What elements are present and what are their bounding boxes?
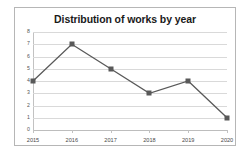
y-tick-label-6: 6 [27, 54, 30, 59]
data-point-2017 [108, 66, 113, 71]
gridline-0 [33, 130, 227, 131]
y-tick-label-1: 1 [27, 115, 30, 120]
y-tick-label-8: 8 [27, 29, 30, 34]
series-line [33, 32, 227, 130]
y-tick-label-2: 2 [27, 103, 30, 108]
x-tick-label-2020: 2020 [221, 138, 233, 144]
x-tick-label-2016: 2016 [66, 138, 78, 144]
data-point-2018 [147, 91, 152, 96]
x-tick-2020 [227, 130, 228, 133]
x-tick-2017 [111, 130, 112, 133]
x-tick-2018 [149, 130, 150, 133]
data-point-2015 [31, 79, 36, 84]
y-tick-label-7: 7 [27, 42, 30, 47]
plot-area: 012345678 201520162017201820192020 [33, 32, 227, 130]
data-point-2020 [225, 115, 230, 120]
x-tick-label-2015: 2015 [27, 138, 39, 144]
data-point-2019 [186, 79, 191, 84]
x-tick-2019 [188, 130, 189, 133]
chart-title: Distribution of works by year [15, 13, 235, 25]
x-tick-label-2019: 2019 [182, 138, 194, 144]
x-tick-2016 [72, 130, 73, 133]
data-point-2016 [69, 42, 74, 47]
x-tick-label-2018: 2018 [143, 138, 155, 144]
x-tick-2015 [33, 130, 34, 133]
y-tick-label-3: 3 [27, 91, 30, 96]
y-tick-label-5: 5 [27, 66, 30, 71]
y-tick-label-0: 0 [27, 127, 30, 132]
chart-frame: Distribution of works by year 012345678 … [14, 7, 236, 146]
x-tick-label-2017: 2017 [104, 138, 116, 144]
